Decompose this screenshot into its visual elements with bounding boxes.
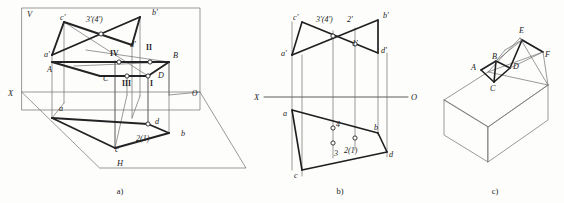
technical-drawing-figure: V H X O c' b' a' d' A B C D a b c d 3'(4… xyxy=(0,0,564,203)
panel-c-solid-model: E B A D C F c) xyxy=(0,0,564,203)
label-c-point-B: B xyxy=(492,52,497,61)
label-c-point-E: E xyxy=(518,26,524,35)
label-c-point-F: F xyxy=(544,50,551,59)
caption-c: c) xyxy=(492,187,499,196)
prism-body-outline xyxy=(444,72,548,162)
label-c-point-C: C xyxy=(490,84,496,93)
label-c-point-A: A xyxy=(470,63,477,72)
label-c-point-D: D xyxy=(512,62,519,71)
